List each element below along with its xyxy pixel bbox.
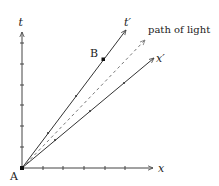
x-prime-axis xyxy=(22,58,154,168)
point-a-label: A xyxy=(9,170,19,183)
x-axis xyxy=(22,166,153,170)
x-axis-label: x xyxy=(158,162,165,175)
light-path xyxy=(22,40,145,168)
t-axis-label: t xyxy=(19,16,24,29)
point-b-label: B xyxy=(90,47,98,60)
t-prime-axis xyxy=(22,30,126,168)
point-b-marker xyxy=(102,58,106,62)
light-path-label: path of light xyxy=(148,24,210,35)
x-prime-label: x′ xyxy=(156,52,165,65)
point-a-marker xyxy=(20,166,24,170)
spacetime-diagram: t x t′ x′ path of light A B xyxy=(0,0,219,186)
t-prime-label: t′ xyxy=(124,16,131,29)
t-axis xyxy=(20,32,24,168)
